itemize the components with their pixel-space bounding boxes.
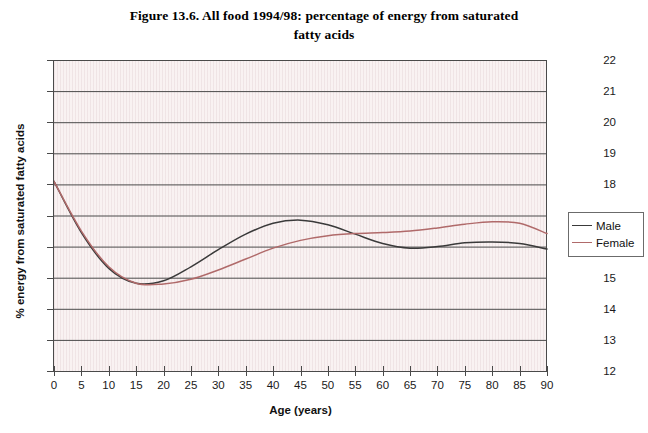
legend-swatch-female	[572, 242, 592, 243]
y-tick-mark	[47, 340, 54, 341]
x-tick-label: 25	[176, 379, 206, 391]
y-tick-mark	[47, 216, 54, 217]
y-tick-mark	[47, 371, 54, 372]
y-tick-mark	[47, 278, 54, 279]
x-tick-label: 60	[368, 379, 398, 391]
gridlines	[54, 61, 547, 372]
y-tick-label: 19	[594, 147, 616, 159]
x-tick-label: 5	[66, 379, 96, 391]
series-line-female	[54, 181, 547, 285]
y-tick-label: 22	[594, 54, 616, 66]
y-tick-label: 12	[594, 365, 616, 377]
x-tick-mark	[164, 366, 165, 376]
x-tick-mark	[136, 366, 137, 376]
chart-title-line-2: fatty acids	[64, 25, 584, 44]
chart-canvas	[54, 60, 547, 371]
legend-label-female: Female	[596, 237, 634, 249]
x-tick-mark	[465, 366, 466, 376]
x-tick-mark	[301, 366, 302, 376]
x-tick-mark	[328, 366, 329, 376]
plot-area	[54, 60, 547, 371]
y-tick-mark	[47, 91, 54, 92]
x-tick-mark	[191, 366, 192, 376]
x-tick-label: 70	[422, 379, 452, 391]
x-tick-label: 15	[121, 379, 151, 391]
x-tick-mark	[109, 366, 110, 376]
y-tick-label: 15	[594, 272, 616, 284]
x-tick-mark	[437, 366, 438, 376]
chart-title-line-1: Figure 13.6. All food 1994/98: percentag…	[64, 6, 584, 25]
x-tick-label: 80	[477, 379, 507, 391]
x-tick-label: 55	[340, 379, 370, 391]
legend-label-male: Male	[596, 220, 621, 232]
x-tick-mark	[246, 366, 247, 376]
x-tick-mark	[383, 366, 384, 376]
y-tick-label: 18	[594, 178, 616, 190]
chart-title: Figure 13.6. All food 1994/98: percentag…	[64, 6, 584, 44]
x-tick-label: 40	[258, 379, 288, 391]
x-tick-mark	[54, 366, 55, 376]
y-tick-label: 21	[594, 85, 616, 97]
x-tick-label: 10	[94, 379, 124, 391]
y-tick-mark	[47, 60, 54, 61]
y-tick-mark	[47, 309, 54, 310]
x-tick-mark	[410, 366, 411, 376]
x-tick-label: 0	[39, 379, 69, 391]
x-axis-title: Age (years)	[54, 404, 547, 416]
x-tick-mark	[547, 366, 548, 376]
y-tick-mark	[47, 122, 54, 123]
x-tick-mark	[355, 366, 356, 376]
x-tick-mark	[218, 366, 219, 376]
y-tick-mark	[47, 184, 54, 185]
x-tick-label: 35	[231, 379, 261, 391]
x-tick-mark	[492, 366, 493, 376]
x-tick-label: 90	[532, 379, 562, 391]
chart-legend: Male Female	[568, 212, 644, 257]
x-tick-mark	[273, 366, 274, 376]
x-tick-mark	[520, 366, 521, 376]
x-tick-label: 30	[203, 379, 233, 391]
y-axis-title: % energy from saturated fatty acids	[14, 96, 26, 346]
y-tick-label: 14	[594, 303, 616, 315]
y-tick-mark	[47, 153, 54, 154]
y-tick-label: 13	[594, 334, 616, 346]
x-tick-label: 45	[286, 379, 316, 391]
legend-item-female: Female	[572, 234, 640, 251]
legend-item-male: Male	[572, 217, 640, 234]
x-tick-label: 20	[149, 379, 179, 391]
x-tick-label: 75	[450, 379, 480, 391]
data-series-group	[54, 181, 547, 285]
x-tick-label: 50	[313, 379, 343, 391]
x-tick-label: 85	[505, 379, 535, 391]
y-tick-label: 20	[594, 116, 616, 128]
chart-figure: Figure 13.6. All food 1994/98: percentag…	[0, 0, 648, 433]
legend-swatch-male	[572, 225, 592, 226]
series-line-male	[54, 181, 547, 284]
y-tick-mark	[47, 247, 54, 248]
x-tick-label: 65	[395, 379, 425, 391]
x-tick-mark	[81, 366, 82, 376]
